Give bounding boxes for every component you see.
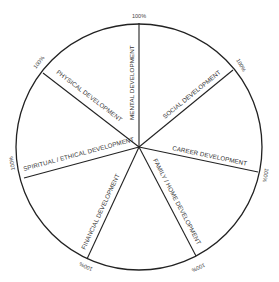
label-mental: MENTAL DEVELOPMENT (128, 45, 135, 120)
label-spiritual-ethical: SPIRITUAL / ETHICAL DEVELOPMENT (22, 135, 134, 172)
percent-physical: 100% (32, 55, 45, 70)
percent-mental: 100% (132, 13, 146, 19)
spoke-physical (43, 73, 139, 147)
percent-family-home: 100% (191, 262, 206, 273)
spoke-family-home (139, 147, 196, 256)
percent-financial: 100% (78, 261, 93, 272)
label-financial: FINANCIAL DEVELOPMENT (80, 172, 121, 250)
label-family-home: FAMILY / HOME DEVELOPMENT (152, 157, 203, 246)
label-career: CAREER DEVELOPMENT (172, 144, 248, 167)
label-physical: PHYSICAL DEVELOPMENT (55, 68, 124, 123)
percent-spiritual-ethical: 100% (8, 156, 16, 171)
wheel-diagram: MENTAL DEVELOPMENT SOCIAL DEVELOPMENT CA… (0, 0, 279, 282)
percent-career: 100% (262, 168, 270, 183)
percent-social: 100% (235, 58, 247, 73)
label-social: SOCIAL DEVELOPMENT (161, 68, 222, 120)
spoke-social (139, 70, 233, 147)
spoke-financial (87, 147, 139, 259)
